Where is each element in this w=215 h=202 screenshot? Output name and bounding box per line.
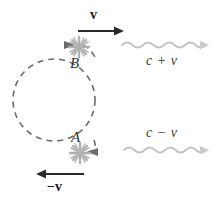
velocity-label-top: v [90, 8, 97, 22]
point-label-a: A [71, 130, 80, 145]
point-label-b: B [70, 56, 79, 71]
diagram-vector-layer [0, 0, 215, 202]
velocity-label-bottom: −v [47, 180, 62, 194]
speed-label-upper: c + v [146, 54, 177, 68]
light-wave-lower [124, 146, 209, 154]
star-marker-a [70, 143, 90, 163]
velocity-arrow-top [78, 27, 124, 36]
velocity-arrow-bottom [36, 170, 84, 179]
dashed-orbit-circle [13, 59, 95, 141]
star-marker-b [69, 37, 89, 57]
physics-diagram-figure: B A v −v c + v c − v [0, 0, 215, 202]
speed-label-lower: c − v [146, 126, 177, 140]
light-wave-upper [122, 41, 209, 49]
